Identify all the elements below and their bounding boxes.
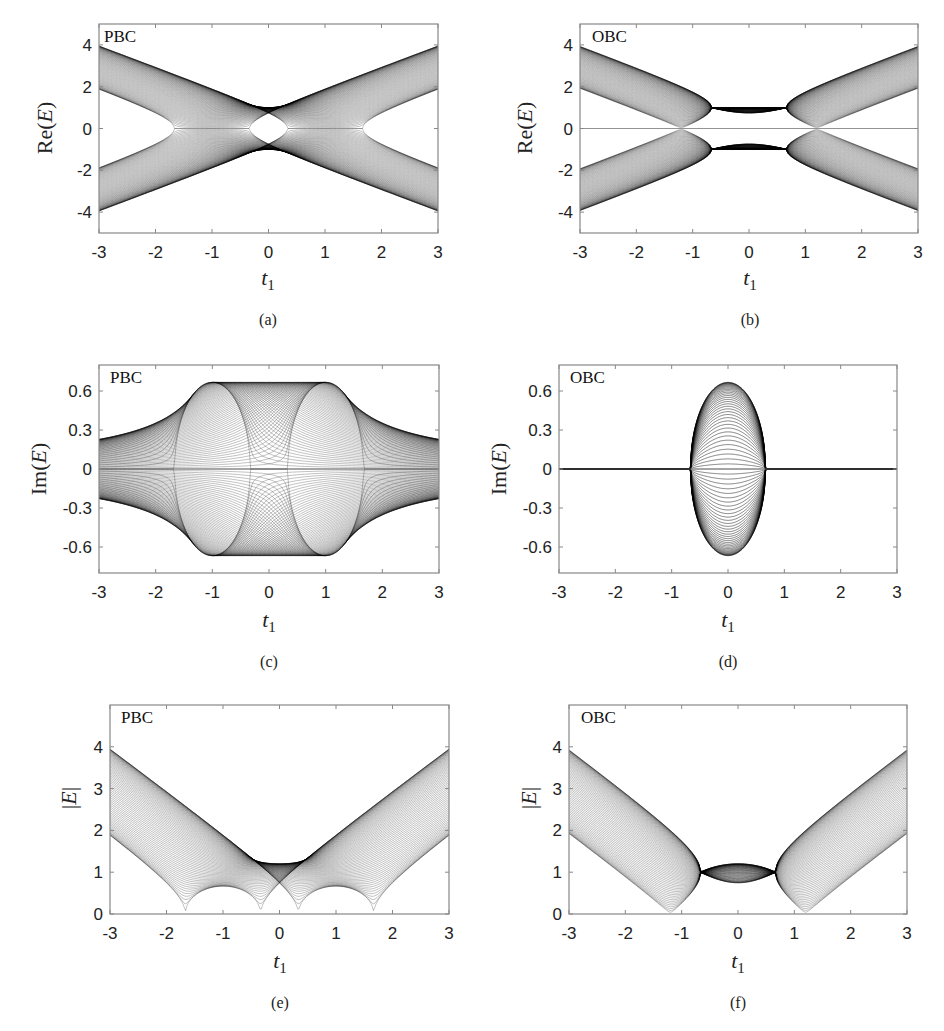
band-curve	[559, 469, 897, 553]
band-curve	[99, 493, 439, 556]
y-tick-label: 1	[94, 863, 103, 882]
curves-b	[580, 47, 918, 211]
band-curve	[99, 46, 438, 127]
x-axis-label-e: t1	[273, 948, 287, 976]
y-tick-label: 0.6	[528, 382, 552, 401]
band-curve	[559, 384, 897, 469]
band-curve	[99, 57, 438, 109]
y-tick-label: 0	[564, 120, 573, 139]
boundary-label-a: PBC	[104, 27, 136, 46]
band-curve	[559, 454, 897, 469]
band-curve	[110, 769, 449, 866]
band-curve	[559, 469, 897, 539]
band-curve	[99, 46, 438, 128]
band-curve	[559, 469, 897, 549]
x-tick-label: -1	[685, 243, 700, 262]
curves-c	[99, 382, 439, 555]
band-curve	[559, 469, 897, 506]
band-curve	[110, 752, 449, 882]
band-curve	[559, 469, 897, 524]
band-curve	[569, 829, 907, 898]
band-curve	[99, 382, 439, 446]
band-curve	[569, 762, 907, 873]
band-curve	[559, 399, 897, 469]
y-axis-label-f: |E|	[516, 787, 541, 809]
x-tick-label: -1	[204, 243, 219, 262]
band-curve	[99, 477, 439, 556]
curves-d	[559, 382, 897, 555]
band-curve	[99, 46, 438, 127]
band-curve	[559, 406, 897, 469]
x-tick-label: 0	[744, 243, 753, 262]
band-curve	[99, 382, 439, 467]
band-curve	[559, 386, 897, 469]
x-tick-label: -3	[91, 243, 106, 262]
band-curve	[559, 384, 897, 469]
boundary-label-c: PBC	[110, 368, 142, 387]
band-curve	[99, 382, 439, 454]
band-curve	[559, 469, 897, 555]
band-curve	[559, 409, 897, 469]
curves-f	[569, 750, 907, 912]
band-curve	[559, 445, 897, 469]
band-curve	[559, 469, 897, 532]
y-tick-label: -2	[558, 161, 573, 180]
band-curve	[559, 418, 897, 469]
band-curve	[559, 409, 897, 469]
band-curve	[99, 129, 438, 211]
y-tick-label: 2	[564, 78, 573, 97]
x-tick-label: 1	[320, 243, 329, 262]
band-curve	[559, 432, 897, 469]
band-curve	[569, 759, 907, 872]
band-curve	[559, 469, 897, 520]
band-curve	[580, 47, 918, 108]
x-tick-label: -3	[91, 583, 106, 602]
band-curve	[580, 137, 918, 172]
y-tick-label: 3	[94, 780, 103, 799]
band-curve	[99, 148, 438, 200]
band-curve	[110, 764, 449, 870]
x-tick-label: 0	[275, 924, 284, 943]
x-tick-label: -3	[572, 243, 587, 262]
band-curve	[580, 48, 918, 108]
x-tick-label: 0	[733, 924, 742, 943]
x-tick-label: 1	[801, 243, 810, 262]
band-curve	[559, 469, 897, 553]
y-tick-label: -4	[558, 203, 573, 222]
band-curve	[99, 484, 439, 556]
panel-c: -3-2-10123-0.6-0.300.30.6 PBC Im(E) t1 (…	[26, 365, 444, 671]
x-tick-label: -3	[561, 924, 576, 943]
band-curve	[110, 769, 449, 866]
y-tick-label: 0	[543, 460, 552, 479]
band-curve	[569, 750, 907, 872]
x-tick-label: 1	[780, 583, 789, 602]
band-curve	[559, 454, 897, 469]
y-tick-label: 0	[83, 120, 92, 139]
band-curve	[559, 469, 897, 510]
band-curve	[559, 385, 897, 469]
x-axis-label-d: t1	[721, 607, 735, 635]
band-curve	[99, 493, 439, 556]
band-curve	[580, 148, 918, 207]
y-tick-label: -0.6	[63, 538, 92, 557]
band-curve	[559, 418, 897, 469]
y-tick-label: -4	[77, 203, 92, 222]
x-tick-label: 2	[846, 924, 855, 943]
y-tick-label: 0.3	[68, 421, 92, 440]
band-curve	[569, 764, 907, 874]
band-curve	[559, 469, 897, 555]
band-curve	[559, 383, 897, 469]
band-curve	[559, 404, 897, 469]
y-tick-label: -0.3	[63, 499, 92, 518]
y-tick-label: -0.3	[523, 499, 552, 518]
band-curve	[569, 769, 907, 877]
caption-e: (e)	[271, 994, 289, 1012]
band-curve	[559, 394, 897, 469]
band-curve	[559, 424, 897, 469]
band-curve	[99, 382, 439, 461]
band-curve	[99, 382, 439, 461]
band-curve	[559, 469, 897, 544]
band-curve	[559, 383, 897, 469]
band-curve	[99, 491, 439, 555]
band-curve	[559, 391, 897, 469]
